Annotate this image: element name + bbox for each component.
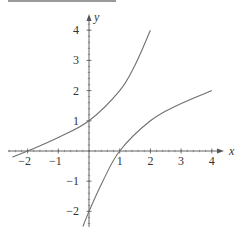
function-plot: −2−112344321−1−2xy	[0, 0, 244, 227]
y-tick-label: −1	[66, 174, 79, 188]
x-tick-label: 3	[178, 154, 184, 168]
y-tick-label: 4	[73, 23, 79, 37]
curve-function	[12, 30, 150, 157]
y-tick-label: 1	[73, 114, 79, 128]
y-axis-arrow-icon	[87, 14, 92, 21]
y-tick-label: 3	[73, 53, 79, 67]
x-axis-label: x	[228, 144, 235, 158]
y-tick-label: −2	[66, 204, 79, 218]
x-tick-label: −2	[18, 154, 31, 168]
x-tick-label: 4	[209, 154, 215, 168]
tick-labels: −2−112344321−1−2xy	[18, 10, 235, 218]
x-axis-arrow-icon	[217, 149, 224, 154]
y-tick-label: 2	[73, 84, 79, 98]
x-tick-label: 2	[147, 154, 153, 168]
curves	[12, 30, 212, 226]
axes	[8, 14, 224, 227]
y-axis-label: y	[93, 10, 100, 24]
x-tick-label: −1	[49, 154, 62, 168]
x-tick-label: 1	[117, 154, 123, 168]
